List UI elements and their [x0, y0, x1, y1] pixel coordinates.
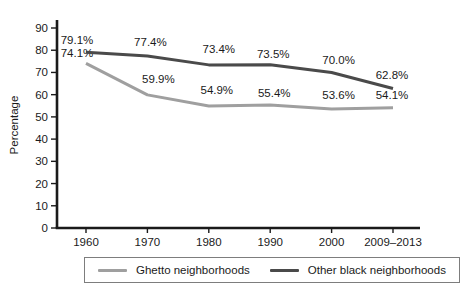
legend: Ghetto neighborhoods Other black neighbo…: [84, 257, 460, 283]
data-label: 73.4%: [202, 43, 235, 55]
legend-label-other-black: Other black neighborhoods: [308, 264, 446, 276]
data-label: 70.0%: [322, 54, 355, 66]
legend-item-ghetto: Ghetto neighborhoods: [98, 264, 250, 276]
series-line-0: [86, 63, 393, 109]
y-tick-label: 0: [42, 222, 48, 234]
x-tick-label: 1960: [73, 236, 99, 248]
x-tick-label: 2000: [319, 236, 345, 248]
data-label: 73.5%: [257, 48, 290, 60]
y-tick-label: 50: [35, 111, 48, 123]
legend-label-ghetto: Ghetto neighborhoods: [136, 264, 250, 276]
y-tick-label: 40: [35, 133, 48, 145]
data-label: 62.8%: [376, 69, 409, 81]
data-label: 54.1%: [376, 89, 409, 101]
line-chart: 0102030405060708090196019701980199020002…: [0, 0, 434, 252]
data-label: 77.4%: [134, 36, 167, 48]
y-axis-title: Percentage: [8, 75, 20, 175]
y-tick-label: 30: [35, 155, 48, 167]
x-tick-label: 2009–2013: [364, 236, 422, 248]
y-tick-label: 70: [35, 66, 48, 78]
y-tick-label: 90: [35, 22, 48, 34]
y-tick-label: 10: [35, 200, 48, 212]
x-tick-label: 1980: [196, 236, 222, 248]
x-tick-label: 1970: [135, 236, 161, 248]
y-tick-label: 20: [35, 178, 48, 190]
data-label: 79.1%: [61, 34, 94, 46]
legend-line-ghetto-icon: [98, 269, 127, 272]
data-label: 53.6%: [322, 89, 355, 101]
data-label: 54.9%: [200, 84, 233, 96]
legend-item-other-black: Other black neighborhoods: [270, 264, 446, 276]
data-label: 55.4%: [258, 87, 291, 99]
y-tick-label: 80: [35, 44, 48, 56]
legend-line-other-black-icon: [270, 269, 299, 272]
x-tick-label: 1990: [257, 236, 283, 248]
data-label: 59.9%: [142, 73, 175, 85]
y-tick-label: 60: [35, 89, 48, 101]
